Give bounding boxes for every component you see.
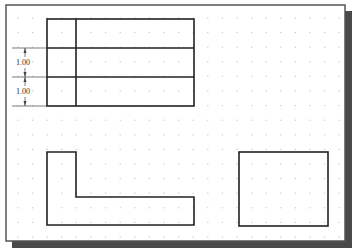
drawing-canvas[interactable]: 1.00 1.00 xyxy=(0,0,359,250)
dimension-label-2: 1.00 xyxy=(16,87,30,96)
dimension-label-1: 1.00 xyxy=(16,58,30,67)
drawing-sheet-frame xyxy=(6,5,345,241)
